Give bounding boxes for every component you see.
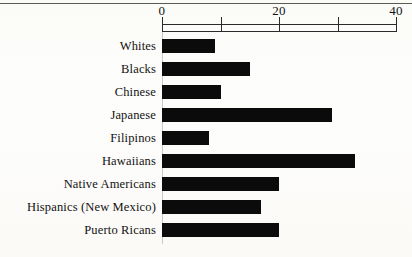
category-label-hawaiians: Hawaiians [102,153,156,168]
category-label-blacks: Blacks [121,61,156,76]
category-label-puerto-ricans: Puerto Ricans [84,222,156,237]
bar-track [162,154,396,168]
bar-track [162,62,396,76]
bar-track [162,39,396,53]
bar-native-americans [162,177,279,191]
category-label-hispanics-new-mexico: Hispanics (New Mexico) [27,199,156,214]
bar-row: Blacks [0,57,412,80]
bar-rows: WhitesBlacksChineseJapaneseFilipinosHawa… [0,34,412,241]
value-axis: 02040 [162,24,396,32]
bar-row: Hawaiians [0,149,412,172]
bar-track [162,200,396,214]
bar-track [162,177,396,191]
axis-tick-20 [279,17,280,32]
bar-row: Native Americans [0,172,412,195]
bar-row: Hispanics (New Mexico) [0,195,412,218]
bar-japanese [162,108,332,122]
page-top-rule [0,3,412,4]
bar-track [162,85,396,99]
bar-track [162,223,396,237]
bar-track [162,108,396,122]
axis-tick-label-0: 0 [159,3,166,19]
axis-tick-label-40: 40 [389,3,403,19]
axis-tick-40 [396,17,397,32]
category-label-chinese: Chinese [115,84,156,99]
horizontal-bar-chart: 02040 WhitesBlacksChineseJapaneseFilipin… [0,8,412,257]
bar-blacks [162,62,250,76]
bar-hispanics-new-mexico [162,200,261,214]
bar-hawaiians [162,154,355,168]
bar-row: Puerto Ricans [0,218,412,241]
bar-whites [162,39,215,53]
category-label-whites: Whites [120,38,156,53]
axis-tick-10 [221,17,222,32]
bar-row: Japanese [0,103,412,126]
bar-track [162,131,396,145]
chart-page: 02040 WhitesBlacksChineseJapaneseFilipin… [0,0,412,257]
axis-tick-label-20: 20 [272,3,286,19]
bar-row: Filipinos [0,126,412,149]
bar-chinese [162,85,221,99]
category-label-filipinos: Filipinos [110,130,156,145]
category-label-japanese: Japanese [110,107,156,122]
bar-row: Whites [0,34,412,57]
bar-filipinos [162,131,209,145]
bar-puerto-ricans [162,223,279,237]
axis-tick-0 [162,17,163,32]
bar-row: Chinese [0,80,412,103]
axis-tick-30 [338,17,339,32]
category-label-native-americans: Native Americans [64,176,156,191]
